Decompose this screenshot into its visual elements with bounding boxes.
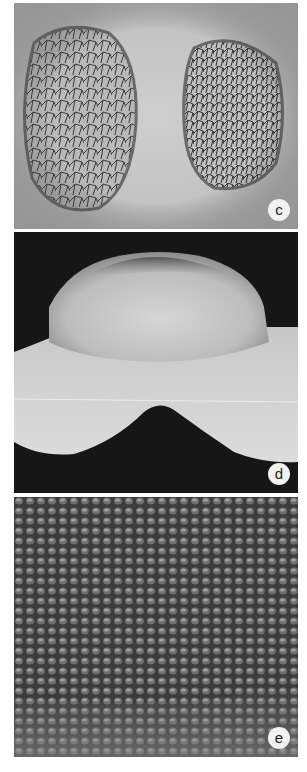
panel-e-sem-closeup: e (14, 497, 298, 757)
panel-label-c: c (268, 199, 290, 221)
panel-label-d: d (268, 463, 290, 485)
panel-d-sem: d (14, 232, 298, 493)
papillate-surface-image (14, 497, 298, 757)
dome-structure-image (14, 232, 298, 493)
panel-label-e: e (268, 727, 290, 749)
reticulate-lobes-image (14, 3, 298, 229)
panel-c-micrograph: c (14, 3, 298, 229)
